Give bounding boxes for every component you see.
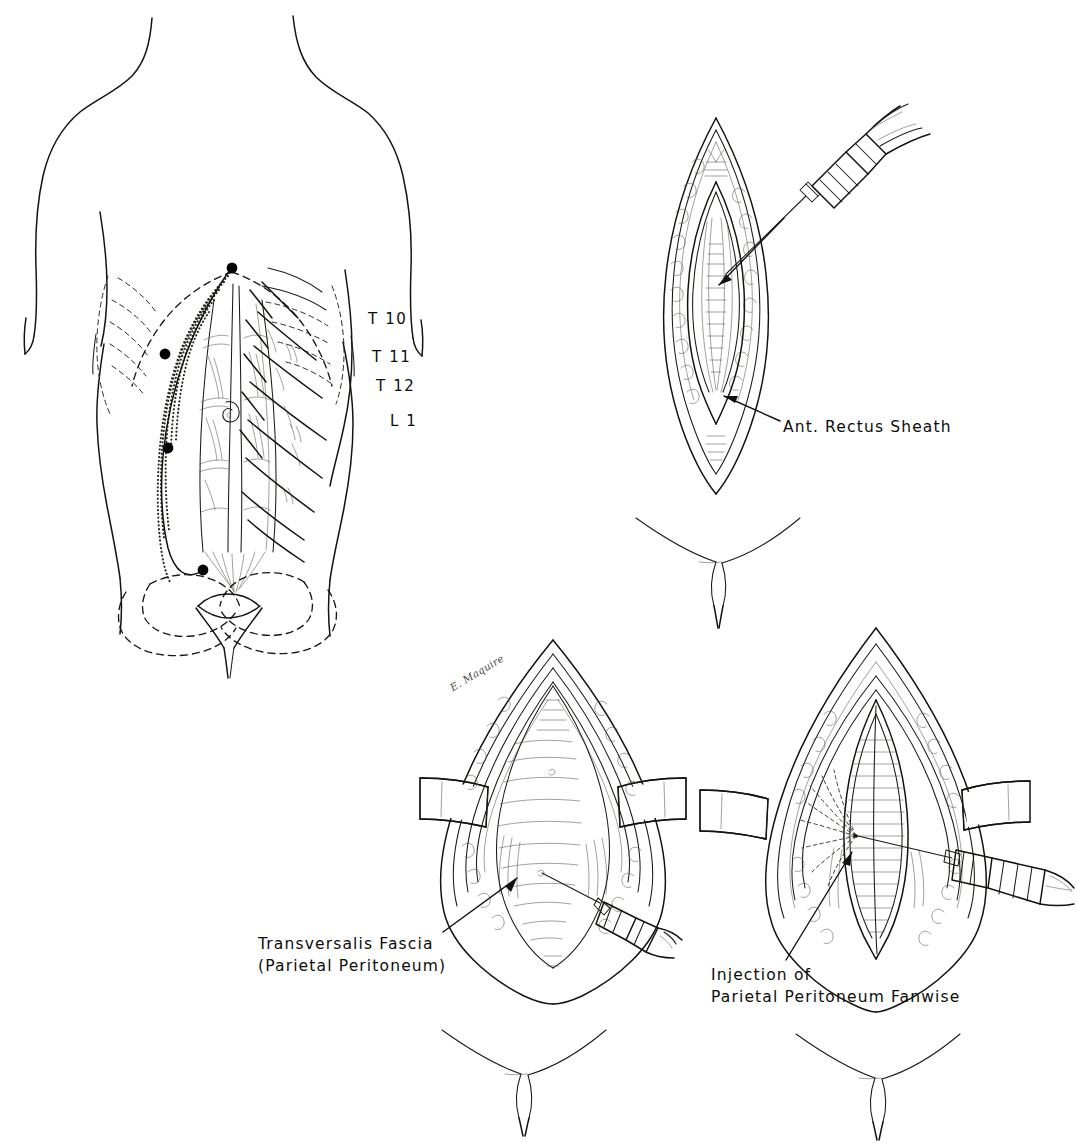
wound-edges-outer-3 — [441, 640, 666, 1004]
panel-torso — [24, 16, 422, 678]
label-fanwise-injection-line2: Parietal Peritoneum Fanwise — [711, 987, 960, 1009]
segmental-nerves — [240, 270, 352, 562]
anterior-rectus-sheath — [688, 182, 745, 424]
subcutaneous-fat-left — [671, 159, 704, 403]
fanwise-label-leader — [786, 852, 852, 960]
injection-marker-4 — [198, 565, 209, 576]
retractor-right — [618, 778, 686, 827]
retractor-left — [420, 778, 488, 827]
injection-site-markers — [160, 263, 238, 576]
panel-fanwise — [700, 628, 1074, 1012]
injection-marker-1 — [227, 263, 238, 274]
wound-layers-left-4 — [792, 676, 876, 944]
nerve-label-t10: T 10 — [368, 310, 407, 328]
wound-layers-right-4 — [876, 676, 961, 946]
syringe-rectus-sheath — [726, 104, 930, 274]
wound-edges-outer-4 — [766, 628, 986, 1012]
label-fanwise-injection: Injection of Parietal Peritoneum Fanwise — [711, 965, 960, 1008]
syringe-fanwise — [858, 836, 1074, 906]
stipple-shading — [158, 276, 228, 582]
nerve-label-l1: L 1 — [390, 412, 417, 430]
transversalis-fascia-surface — [497, 686, 610, 968]
retractor-right-4 — [962, 781, 1030, 830]
panel-transversalis — [420, 640, 686, 1004]
torso-outline — [24, 16, 422, 636]
label-transversalis-fascia-line1: Transversalis Fascia — [258, 934, 446, 956]
wound-edges-outer — [664, 118, 769, 494]
groin-landmark-upper — [636, 518, 800, 628]
label-ant-rectus-sheath: Ant. Rectus Sheath — [783, 416, 952, 438]
wound-apex-hatching — [705, 150, 727, 460]
illustration-plate: T 10 T 11 T 12 L 1 Ant. Rectus Sheath Tr… — [0, 0, 1077, 1144]
label-transversalis-fascia-line2: (Parietal Peritoneum) — [258, 956, 446, 978]
fanwise-spread-rays — [800, 770, 858, 886]
label-fanwise-injection-line1: Injection of — [711, 965, 960, 987]
groin-landmark-lower-right — [796, 1034, 960, 1140]
injection-marker-2 — [160, 349, 171, 360]
costal-margin-dashed — [97, 268, 344, 414]
nerve-label-t12: T 12 — [376, 377, 415, 395]
label-transversalis-fascia: Transversalis Fascia (Parietal Peritoneu… — [258, 934, 446, 977]
retractor-left-4 — [700, 790, 768, 839]
injection-marker-3 — [163, 443, 174, 454]
pelvic-landmarks-dashed — [119, 573, 337, 678]
rectus-abdominis-muscle — [199, 284, 276, 592]
groin-landmark-lower-left — [442, 1030, 606, 1136]
nerve-label-t11: T 11 — [372, 348, 411, 366]
rectus-sheath-label-leader — [724, 396, 780, 421]
